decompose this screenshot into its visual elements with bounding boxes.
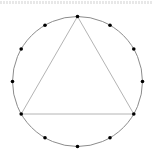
circle-point bbox=[132, 47, 136, 51]
circle-point bbox=[43, 136, 47, 140]
circle-points bbox=[11, 15, 145, 149]
circle-point bbox=[108, 136, 112, 140]
inscribed-triangle-diagram bbox=[0, 0, 152, 156]
circle-point bbox=[19, 47, 23, 51]
circle-point bbox=[108, 23, 112, 27]
circle-point bbox=[76, 145, 80, 149]
circle-point bbox=[19, 112, 23, 116]
circle-point bbox=[43, 23, 47, 27]
circle-point bbox=[141, 80, 145, 84]
equilateral-triangle bbox=[21, 17, 134, 115]
circle-point bbox=[132, 112, 136, 116]
circle-point bbox=[76, 15, 80, 19]
circumcircle bbox=[13, 17, 143, 147]
circle-point bbox=[11, 80, 15, 84]
